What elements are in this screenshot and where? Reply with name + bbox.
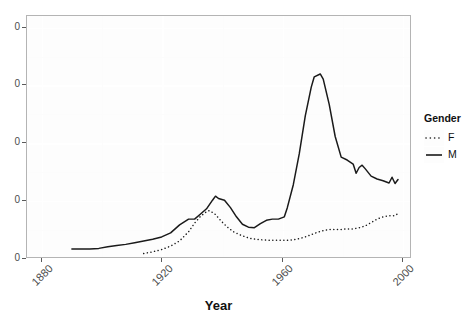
x-axis-tick [161,258,162,262]
legend-key-solid-line-icon [424,147,444,163]
y-axis-tick [22,258,26,259]
y-axis-tick-label: 0 [0,137,20,147]
x-axis-title: Year [26,298,411,313]
series-lines [27,16,410,257]
x-axis-tick [41,258,42,262]
y-axis-tick-label: 0 [0,22,20,32]
series-line-f [144,211,398,254]
y-axis-tick [22,142,26,143]
x-axis-tick-label: 1880 [29,262,55,288]
x-axis-tick-label: 1960 [269,262,295,288]
legend-title: Gender [424,113,472,124]
y-axis-tick-label: 0 [0,253,20,263]
x-axis-tick [282,258,283,262]
legend: Gender F M [424,113,472,163]
y-axis-tick [22,27,26,28]
x-axis-tick [402,258,403,262]
plot-panel [26,15,411,258]
series-line-m [72,74,398,249]
y-axis-tick-label: 0 [0,79,20,89]
y-axis-tick [22,200,26,201]
legend-item-f[interactable]: F [424,129,472,146]
x-axis-tick-label: 1920 [149,262,175,288]
legend-item-m[interactable]: M [424,146,472,163]
chart-figure: 00000 1880192019602000 Year Gender F M [0,0,472,329]
legend-label-f: F [448,132,454,143]
legend-label-m: M [448,149,457,160]
y-axis-tick-label: 0 [0,195,20,205]
y-axis-tick [22,84,26,85]
legend-key-dotted-line-icon [424,130,444,146]
x-axis-tick-label: 2000 [390,262,416,288]
